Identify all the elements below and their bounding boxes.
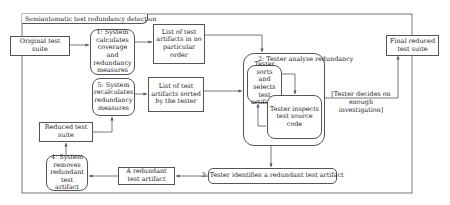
- list-unordered-node[interactable]: List of test artifacts in no particular …: [153, 24, 205, 64]
- step3-identify-redundant-node[interactable]: 3: Tester identifies a redundant test ar…: [208, 168, 337, 184]
- redundant-artifact-node[interactable]: A redundant test artifact: [118, 167, 175, 185]
- tester-inspects-node[interactable]: Tester inspects test source code: [267, 95, 322, 139]
- decision-guard-label: [Tester decides on enough investigation]: [329, 90, 393, 114]
- list-sorted-node[interactable]: List of test artifacts sorted by the tes…: [148, 77, 204, 112]
- step4-remove-artifact-node[interactable]: 4: System removes redundant test artifac…: [46, 155, 88, 191]
- original-test-suite-node[interactable]: Original test suite: [10, 36, 70, 56]
- step5-recalculate-node[interactable]: 5: System recalculates redundancy measur…: [92, 78, 135, 116]
- step1-calculate-measures-node[interactable]: 1: System calculates coverage and redund…: [90, 29, 135, 75]
- reduced-test-suite-node[interactable]: Reduced test suite: [39, 122, 93, 142]
- frame-title: Semiautomatic test redundancy detection: [22, 14, 148, 24]
- final-reduced-suite-node[interactable]: Final reduced test suite: [386, 35, 439, 56]
